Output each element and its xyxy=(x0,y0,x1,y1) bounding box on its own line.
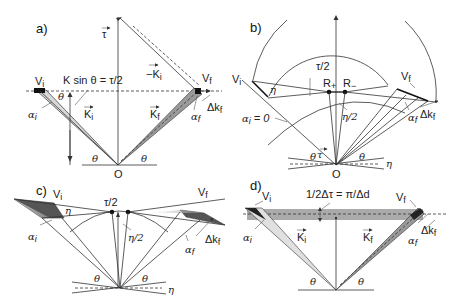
tau-half-label-c: τ/2 xyxy=(104,196,118,208)
alpha-i-label: αi xyxy=(28,109,38,122)
vertical-line-tip-d xyxy=(335,217,337,219)
theta-label-d-right: θ xyxy=(358,276,364,287)
r-plus-label: R+ xyxy=(323,77,336,91)
outer-ewald-arc-right xyxy=(405,21,436,101)
theta-label-c-right: θ xyxy=(142,273,148,284)
delta-kf-arrow-b xyxy=(420,101,438,107)
vf-label-b: Vf xyxy=(401,70,411,84)
panel-c: c) Vi xyxy=(14,183,225,295)
tau-label-b: τ xyxy=(317,149,323,160)
vf-label-d: Vf xyxy=(396,191,406,205)
origin-label-b: O xyxy=(332,168,341,180)
fan-line-3 xyxy=(336,98,418,165)
o-to-r-plus-c xyxy=(112,212,120,288)
k-sin-theta-equation: K sin θ = τ/2 xyxy=(63,74,123,86)
equation-pointer-d xyxy=(322,203,330,209)
vi-segment-b xyxy=(252,81,268,97)
vi-label-b: Vi xyxy=(232,73,241,87)
vertical-axis-arrowhead-c xyxy=(116,212,120,217)
theta-label-left: θ xyxy=(58,91,64,102)
chord-lower-left xyxy=(268,92,330,98)
eta-label-b: η xyxy=(270,84,276,95)
alpha-f-label: αf xyxy=(191,111,202,124)
scattered-fade-c xyxy=(150,210,204,213)
alpha-f-label-c: αf xyxy=(185,244,196,257)
o-to-r-minus-c xyxy=(120,212,128,288)
r-minus-label: R− xyxy=(343,77,356,91)
ki-label: Ki xyxy=(84,108,93,122)
eta-label-c-origin: η xyxy=(168,284,174,295)
panel-b: b) xyxy=(232,15,438,180)
o-to-r-plus xyxy=(329,92,336,165)
alpha-i-pointer xyxy=(42,102,52,108)
incident-beam-wedge-d xyxy=(245,208,336,290)
origin-label-a: O xyxy=(114,168,123,180)
kf-label: Kf xyxy=(150,108,160,122)
delta-tau-equation: 1/2Δτ = π/Δd xyxy=(306,188,370,200)
eta-half-label-c: η/2 xyxy=(128,232,144,243)
delta-kf-label: Δkf xyxy=(207,101,223,115)
tau-half-label-b: τ/2 xyxy=(316,60,330,72)
theta-label-b-left: θ xyxy=(310,151,316,162)
theta-label-a-left: θ xyxy=(92,153,98,164)
upper-line-right-c xyxy=(128,199,225,212)
panel-d: d) Vi Vf 1/2Δτ = π/Δd αi Ki xyxy=(243,178,446,290)
kf-line-c xyxy=(120,212,180,288)
delta-kf-label-c: Δkf xyxy=(205,233,221,247)
alpha-i-pointer-c xyxy=(40,220,52,225)
ki-line-c xyxy=(42,218,120,288)
eta-label-c: η xyxy=(65,205,71,216)
k-sin-theta-arrowhead-down xyxy=(68,156,73,162)
panel-d-label: d) xyxy=(250,178,262,193)
alpha-i-label-d: αi xyxy=(243,232,253,245)
tau-label: τ xyxy=(102,28,107,40)
axis-arrowhead-b xyxy=(334,15,339,20)
alpha-f-label-d: αf xyxy=(408,235,419,248)
theta-label-d-left: θ xyxy=(310,276,316,287)
vi-label-c: Vi xyxy=(53,188,62,202)
panel-b-label: b) xyxy=(250,20,262,35)
delta-kf-label-d: Δkf xyxy=(421,224,437,238)
vf-label: Vf xyxy=(202,72,212,86)
panel-a-label: a) xyxy=(36,21,48,36)
kf-label-d: Kf xyxy=(363,231,373,245)
vi-label-d: Vi xyxy=(262,190,271,204)
ki-label-d: Ki xyxy=(297,231,306,245)
theta-label-a-right: θ xyxy=(141,153,147,164)
fan-line-1 xyxy=(336,89,397,165)
scattered-beam-wedge xyxy=(118,88,202,165)
chord-upper-left xyxy=(252,81,330,92)
neg-ki-dashed xyxy=(133,26,200,86)
vi-label: Vi xyxy=(35,75,44,89)
vf-label-c: Vf xyxy=(198,186,208,200)
equation-pointer xyxy=(75,90,88,105)
alpha-f-label-b: αf xyxy=(408,112,419,125)
delta-kf-label-b: Δkf xyxy=(420,108,436,122)
ki-line-c2 xyxy=(62,218,120,288)
lower-arc xyxy=(268,102,405,145)
alpha-i-label-c: αi xyxy=(28,231,38,244)
panel-a: a) τ −Ki Vi Vf K sin xyxy=(26,17,223,180)
alpha-i-zero-label: αi = 0 xyxy=(242,112,270,126)
fan-line-2 xyxy=(336,95,406,165)
o-to-r-minus xyxy=(336,92,345,165)
theta-label-c-left: θ xyxy=(94,273,100,284)
theta-label-b-right: θ xyxy=(359,151,365,162)
vf-pointer-d xyxy=(410,200,416,207)
alpha-f-pointer-c xyxy=(186,235,188,241)
neg-ki-label: −Ki xyxy=(146,68,162,82)
eta-label-b-origin: η xyxy=(386,158,392,169)
panel-c-label: c) xyxy=(36,183,47,198)
k-sin-theta-arrowhead-up xyxy=(68,92,73,97)
scattering-geometry-diagram: a) τ −Ki Vi Vf K sin xyxy=(0,0,450,305)
eta-half-label-b: η/2 xyxy=(342,111,358,122)
